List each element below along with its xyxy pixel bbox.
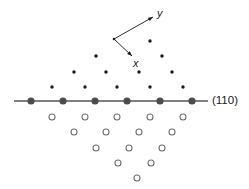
plane-index-label: (110) <box>212 95 238 107</box>
atom-marker-filled-small <box>137 70 140 73</box>
y-axis-arrow <box>114 17 153 39</box>
atom-marker-filled-large <box>188 97 195 104</box>
atom-marker-filled-small <box>72 70 75 73</box>
atom-marker-open-circle <box>147 114 153 120</box>
atom-marker-open-circle <box>93 145 99 151</box>
atom-marker-filled-small <box>148 39 151 42</box>
atom-marker-open-circle <box>114 114 120 120</box>
atom-marker-open-circle <box>71 129 77 135</box>
atom-marker-filled-large <box>123 97 130 104</box>
atom-marker-filled-large <box>27 97 34 104</box>
atom-marker-open-circle <box>136 129 142 135</box>
atom-marker-filled-large <box>156 97 163 104</box>
atom-marker-filled-small <box>94 54 97 57</box>
atom-marker-filled-small <box>115 85 118 88</box>
atom-marker-open-circle <box>126 145 132 151</box>
figure-canvas: y x (110) <box>0 0 249 189</box>
atom-marker-filled-large <box>59 97 66 104</box>
atom-marker-open-circle <box>134 175 140 181</box>
crystal-axes <box>113 17 153 56</box>
atom-marker-open-circle <box>115 160 121 166</box>
atom-marker-open-circle <box>103 129 109 135</box>
atom-marker-open-circle <box>180 114 186 120</box>
atom-marker-open-circle <box>49 114 55 120</box>
y-axis-label: y <box>157 8 163 19</box>
y-axis-arrow-arrowhead <box>148 17 153 21</box>
atom-marker-filled-small <box>104 70 107 73</box>
atom-marker-open-circle <box>159 145 165 151</box>
axes-origin-node <box>113 38 116 41</box>
atom-marker-filled-small <box>181 85 184 88</box>
open-atom-group <box>49 114 186 181</box>
atom-marker-filled-large <box>91 97 98 104</box>
small-atom-group <box>50 39 184 88</box>
atom-marker-filled-small <box>160 54 163 57</box>
atom-marker-open-circle <box>148 160 154 166</box>
atom-marker-open-circle <box>169 129 175 135</box>
atom-marker-filled-small <box>83 85 86 88</box>
atom-marker-filled-small <box>170 70 173 73</box>
atom-marker-open-circle <box>82 114 88 120</box>
atom-marker-filled-small <box>148 85 151 88</box>
x-axis-label: x <box>133 58 139 69</box>
atom-marker-filled-small <box>50 85 53 88</box>
